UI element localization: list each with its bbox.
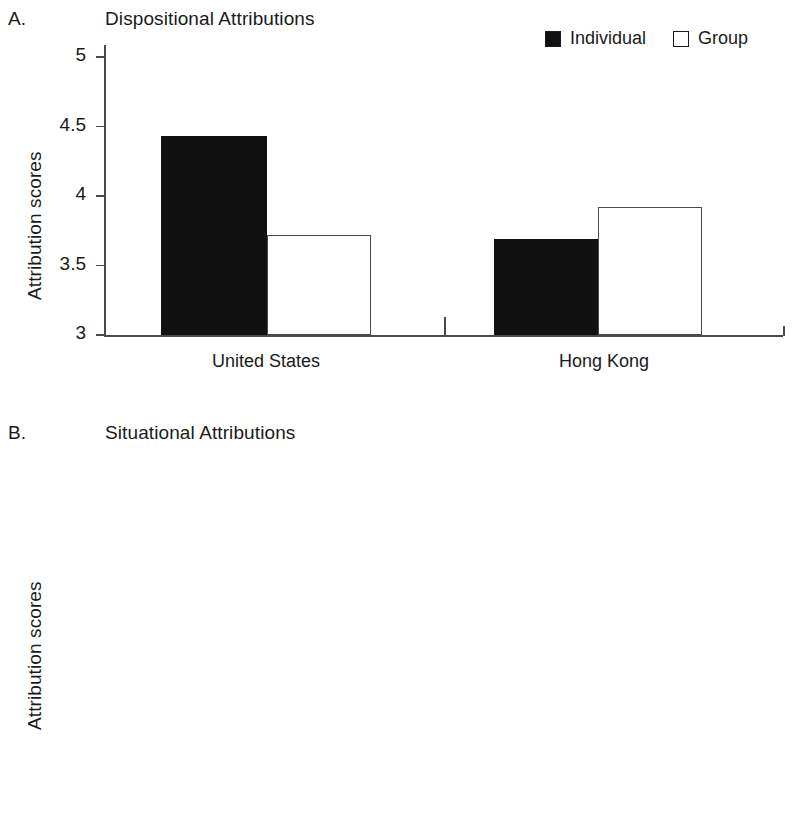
x-axis-end-tick (783, 326, 785, 336)
y-axis-tick (96, 56, 104, 58)
y-axis-tick (96, 334, 104, 336)
panel-a-letter: A. (8, 8, 26, 30)
y-axis-tick (96, 265, 104, 267)
x-axis-group-label: United States (146, 351, 386, 372)
panel-b-y-axis-label: Attribution scores (24, 581, 46, 730)
y-axis-tick-label: 4.5 (8, 114, 86, 136)
panel-a-plot-area: 33.544.55United StatesHong Kong (104, 50, 786, 338)
bar-group-united-states (267, 235, 371, 335)
y-axis-tick (96, 195, 104, 197)
y-axis-tick-label: 4 (8, 183, 86, 205)
bar-group-hong-kong (598, 207, 702, 335)
x-axis-group-label: Hong Kong (484, 351, 724, 372)
bar-individual-hong-kong (494, 239, 598, 335)
panel-b-title: Situational Attributions (105, 422, 295, 444)
panel-a-title: Dispositional Attributions (105, 8, 315, 30)
panel-dispositional-attributions: A. Dispositional Attributions Attributio… (0, 0, 809, 400)
y-axis-tick (96, 126, 104, 128)
bar-individual-united-states (161, 136, 267, 335)
y-axis-tick-label: 3.5 (8, 253, 86, 275)
y-axis-line (104, 45, 106, 335)
y-axis-tick-label: 3 (8, 322, 86, 344)
panel-situational-attributions: B. Situational Attributions Attribution … (0, 400, 809, 820)
panel-a-y-axis-label: Attribution scores (24, 151, 46, 300)
panel-b-letter: B. (8, 422, 26, 444)
y-axis-tick-label: 5 (8, 44, 86, 66)
x-axis-group-separator-tick (444, 317, 446, 336)
